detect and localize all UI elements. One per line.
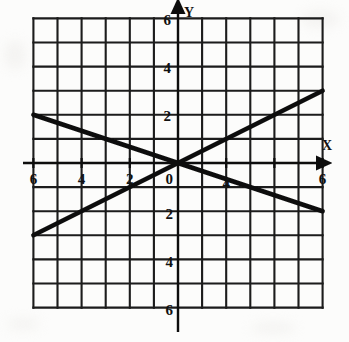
x-axis-label: X <box>322 138 332 153</box>
figure-canvas: 6 4 2 0 2 4 6 6 4 2 4 6 X Y <box>0 0 349 342</box>
y-tick-label-neg-2: 2 <box>166 206 174 222</box>
y-tick-label-4: 4 <box>164 60 172 76</box>
x-tick-label-neg-2: 2 <box>126 171 134 187</box>
coordinate-graph: 6 4 2 0 2 4 6 6 4 2 4 6 X Y <box>0 0 349 342</box>
y-tick-label-2: 2 <box>164 108 172 124</box>
y-tick-label-6: 6 <box>164 12 172 28</box>
x-tick-label-4: 4 <box>222 175 230 191</box>
y-tick-label-neg-6: 6 <box>166 302 174 318</box>
origin-label: 0 <box>166 171 174 187</box>
x-tick-label-neg-6: 6 <box>30 171 38 187</box>
y-tick-label-neg-4: 4 <box>166 254 174 270</box>
y-axis-label: Y <box>184 5 194 20</box>
x-tick-label-6: 6 <box>319 171 327 187</box>
x-tick-label-neg-4: 4 <box>78 171 86 187</box>
